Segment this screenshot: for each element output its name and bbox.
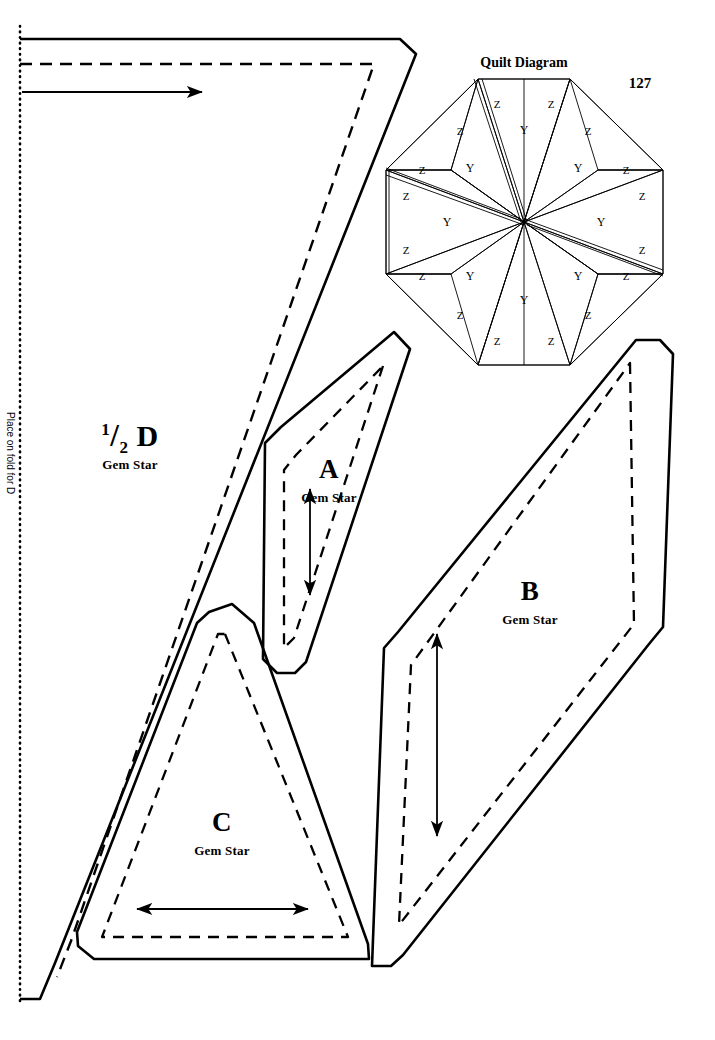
piece-D-sublabel: Gem Star [70, 458, 190, 472]
piece-D-seam-line [20, 64, 374, 977]
piece-A-seam-line [284, 366, 383, 648]
quilt-diagram-octagon [386, 79, 663, 365]
diamond-Y-right [524, 170, 663, 274]
diamond-Y-up-left [386, 79, 524, 222]
piece-D-numerator: 1 [101, 420, 110, 439]
piece-B-cut-line [372, 340, 673, 966]
diamond-Y-left [386, 170, 524, 274]
piece-B-letter: B [490, 577, 570, 605]
piece-C-cut-line [77, 604, 369, 959]
diamond-Y-up-right [524, 79, 663, 222]
piece-D-letter: D [136, 419, 158, 452]
template-piece-C[interactable] [77, 604, 369, 959]
page-number: 127 [615, 76, 665, 92]
diamond-Y-down-right [524, 222, 663, 365]
quilt-diagram-title: Quilt Diagram [464, 56, 584, 71]
pattern-sheet-page: Place on fold for D 1/2 D Gem Star A Gem… [0, 0, 715, 1040]
pattern-sheet-svg [0, 0, 715, 1040]
diamond-Y-down-left [386, 222, 524, 365]
piece-D-denominator: 2 [119, 438, 128, 457]
template-piece-B[interactable] [372, 340, 673, 966]
piece-D-label: 1/2 D [70, 420, 190, 457]
piece-B-sublabel: Gem Star [480, 613, 580, 627]
fold-line-label: Place on fold for D [5, 412, 16, 494]
piece-A-letter: A [289, 455, 369, 483]
triangle-patches [386, 79, 663, 365]
piece-A-sublabel: Gem Star [279, 491, 379, 505]
piece-C-sublabel: Gem Star [172, 844, 272, 858]
piece-B-seam-line [399, 363, 634, 925]
piece-C-letter: C [182, 808, 262, 836]
